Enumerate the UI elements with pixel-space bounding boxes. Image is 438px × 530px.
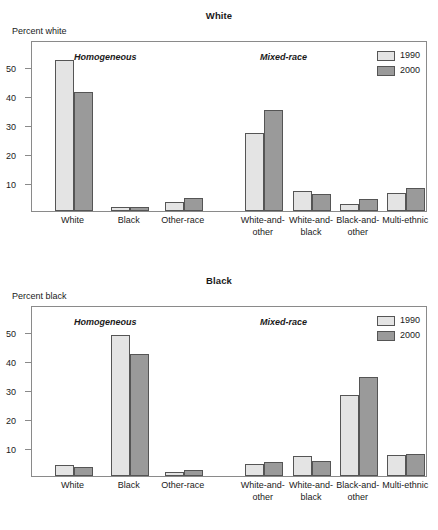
bar-group bbox=[55, 307, 93, 476]
bar-2000 bbox=[74, 467, 93, 476]
x-axis-label-line1: Multi-ethnic bbox=[365, 215, 438, 227]
chart-panel-white: White Percent white Homogeneous Mixed-ra… bbox=[0, 0, 438, 265]
bar-1990 bbox=[55, 465, 74, 476]
bar-group bbox=[293, 307, 331, 476]
bar-group bbox=[165, 42, 203, 211]
bar-group bbox=[340, 42, 378, 211]
bar-1990 bbox=[293, 456, 312, 476]
bar-2000 bbox=[312, 461, 331, 476]
y-axis-tick: 20 bbox=[25, 155, 32, 156]
y-axis-tick-label: 40 bbox=[6, 93, 16, 103]
bar-2000 bbox=[359, 377, 378, 476]
bar-1990 bbox=[387, 193, 406, 211]
bar-2000 bbox=[264, 110, 283, 211]
x-axis-label-line1: Other-race bbox=[143, 215, 223, 227]
bar-2000 bbox=[130, 207, 149, 211]
bar-group bbox=[293, 42, 331, 211]
bar-2000 bbox=[74, 92, 93, 211]
bar-group bbox=[340, 307, 378, 476]
bar-2000 bbox=[264, 462, 283, 476]
bar-group bbox=[245, 307, 283, 476]
y-axis-caption-black: Percent black bbox=[12, 291, 67, 301]
x-axis-label: Other-race bbox=[143, 215, 223, 227]
bar-group bbox=[165, 307, 203, 476]
y-axis-tick: 10 bbox=[25, 449, 32, 450]
bar-1990 bbox=[165, 202, 184, 211]
x-axis-label: Multi-ethnic bbox=[365, 215, 438, 227]
bar-1990 bbox=[245, 464, 264, 476]
y-axis-tick-label: 30 bbox=[6, 122, 16, 132]
y-axis-tick-label: 20 bbox=[6, 416, 16, 426]
plot-area-white: Homogeneous Mixed-race 1990 2000 1020304… bbox=[31, 41, 427, 212]
y-axis-tick: 50 bbox=[25, 333, 32, 334]
chart-panel-black: Black Percent black Homogeneous Mixed-ra… bbox=[0, 265, 438, 530]
y-axis-tick: 40 bbox=[25, 97, 32, 98]
x-axis-labels-black: WhiteBlackOther-raceWhite-and-otherWhite… bbox=[31, 480, 427, 526]
y-axis-tick: 10 bbox=[25, 184, 32, 185]
x-axis-label: Other-race bbox=[143, 480, 223, 492]
bar-1990 bbox=[387, 455, 406, 476]
bar-1990 bbox=[293, 191, 312, 211]
y-axis-tick: 40 bbox=[25, 362, 32, 363]
y-axis-tick-label: 50 bbox=[6, 329, 16, 339]
y-axis-tick: 50 bbox=[25, 68, 32, 69]
y-axis-tick-label: 50 bbox=[6, 64, 16, 74]
y-axis-tick-label: 20 bbox=[6, 151, 16, 161]
x-axis-label-line2: other bbox=[318, 492, 398, 504]
x-axis-label: Multi-ethnic bbox=[365, 480, 438, 492]
y-axis-tick-label: 30 bbox=[6, 387, 16, 397]
bar-group bbox=[55, 42, 93, 211]
y-axis-tick: 30 bbox=[25, 126, 32, 127]
bar-1990 bbox=[165, 472, 184, 476]
y-axis-caption-white: Percent white bbox=[12, 26, 67, 36]
plot-area-black: Homogeneous Mixed-race 1990 2000 1020304… bbox=[31, 306, 427, 477]
bar-group bbox=[111, 307, 149, 476]
bar-2000 bbox=[406, 454, 425, 476]
bar-2000 bbox=[312, 194, 331, 211]
bar-group bbox=[387, 307, 425, 476]
bar-2000 bbox=[406, 188, 425, 211]
chart-title-black: Black bbox=[0, 275, 438, 286]
x-axis-label-line2: other bbox=[318, 227, 398, 239]
x-axis-label-line1: Multi-ethnic bbox=[365, 480, 438, 492]
bar-groups-black bbox=[32, 307, 426, 476]
bar-1990 bbox=[245, 133, 264, 211]
y-axis-tick-label: 10 bbox=[6, 180, 16, 190]
y-axis-tick-label: 10 bbox=[6, 445, 16, 455]
y-axis-tick: 20 bbox=[25, 420, 32, 421]
bar-1990 bbox=[55, 60, 74, 211]
figure-two-bar-charts: White Percent white Homogeneous Mixed-ra… bbox=[0, 0, 438, 530]
bar-2000 bbox=[184, 198, 203, 211]
y-axis-tick: 30 bbox=[25, 391, 32, 392]
y-axis-tick-label: 40 bbox=[6, 358, 16, 368]
bar-group bbox=[387, 42, 425, 211]
bar-1990 bbox=[340, 395, 359, 476]
bar-1990 bbox=[340, 204, 359, 211]
x-axis-labels-white: WhiteBlackOther-raceWhite-and-otherWhite… bbox=[31, 215, 427, 261]
bar-2000 bbox=[130, 354, 149, 476]
bar-groups-white bbox=[32, 42, 426, 211]
chart-title-white: White bbox=[0, 10, 438, 21]
bar-group bbox=[111, 42, 149, 211]
bar-2000 bbox=[184, 470, 203, 476]
bar-1990 bbox=[111, 207, 130, 211]
bar-2000 bbox=[359, 199, 378, 211]
bar-1990 bbox=[111, 335, 130, 476]
x-axis-label-line1: Other-race bbox=[143, 480, 223, 492]
bar-group bbox=[245, 42, 283, 211]
